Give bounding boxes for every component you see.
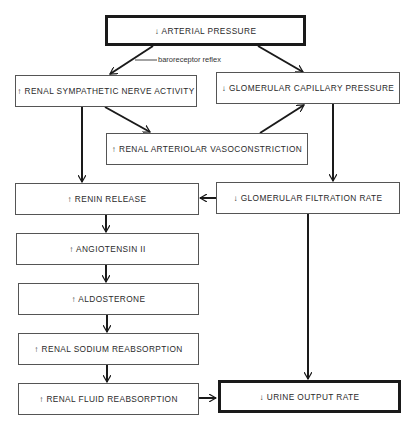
- node-label: ↑ ANGIOTENSIN II: [69, 244, 145, 254]
- arrow-sympathetic-to-vasoconstriction: [105, 107, 150, 132]
- node-label: ↓ URINE OUTPUT RATE: [260, 392, 360, 402]
- node-label: ↓ GLOMERULAR FILTRATION RATE: [233, 193, 382, 203]
- node-label: ↑ RENAL ARTERIOLAR VASOCONSTRICTION: [112, 144, 302, 154]
- node-arteriolar-vasoconstriction: ↑ RENAL ARTERIOLAR VASOCONSTRICTION: [106, 133, 308, 165]
- node-renin-release: ↑ RENIN RELEASE: [15, 183, 199, 215]
- node-aldosterone: ↑ ALDOSTERONE: [18, 283, 199, 315]
- node-sodium-reabsorption: ↑ RENAL SODIUM REABSORPTION: [18, 333, 199, 365]
- node-urine-output: ↓ URINE OUTPUT RATE: [218, 380, 401, 413]
- node-label: ↑ RENAL SODIUM REABSORPTION: [34, 344, 182, 354]
- arrow-vasoconstriction-to-capillary: [260, 105, 304, 133]
- node-label: ↑ ALDOSTERONE: [72, 294, 146, 304]
- node-renal-sympathetic: ↑ RENAL SYMPATHETIC NERVE ACTIVITY: [15, 75, 197, 107]
- node-fluid-reabsorption: ↑ RENAL FLUID REABSORPTION: [18, 383, 199, 415]
- node-label: ↓ GLOMERULAR CAPILLARY PRESSURE: [222, 83, 395, 93]
- arrow-arterial-to-capillary: [258, 46, 303, 72]
- node-glomerular-capillary: ↓ GLOMERULAR CAPILLARY PRESSURE: [216, 72, 400, 104]
- node-angiotensin: ↑ ANGIOTENSIN II: [16, 233, 199, 265]
- node-gfr: ↓ GLOMERULAR FILTRATION RATE: [216, 182, 400, 214]
- node-label: ↑ RENAL FLUID REABSORPTION: [39, 394, 178, 404]
- node-arterial-pressure: ↓ ARTERIAL PRESSURE: [105, 15, 306, 46]
- node-label: ↑ RENAL SYMPATHETIC NERVE ACTIVITY: [17, 86, 194, 96]
- baroreceptor-reflex-label: baroreceptor reflex: [158, 55, 221, 64]
- node-label: ↓ ARTERIAL PRESSURE: [155, 26, 257, 36]
- node-label: ↑ RENIN RELEASE: [68, 194, 147, 204]
